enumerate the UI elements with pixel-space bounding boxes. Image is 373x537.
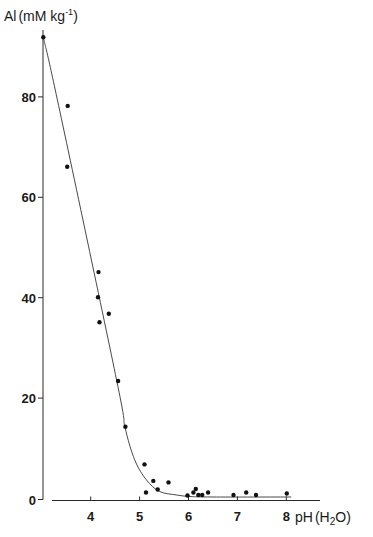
fitted-curve — [43, 37, 291, 497]
x-tick-label: 8 — [283, 509, 290, 524]
svg-text:Al(mM kg-1): Al(mM kg-1) — [4, 7, 78, 24]
data-point — [144, 490, 148, 494]
data-point — [142, 462, 146, 466]
data-point — [185, 493, 189, 497]
data-point — [123, 425, 127, 429]
y-tick-label: 0 — [29, 493, 36, 508]
data-point — [194, 487, 198, 491]
x-tick-label: 4 — [87, 509, 95, 524]
data-point — [285, 491, 289, 495]
data-point — [151, 479, 155, 483]
y-axis-title-sup: -1 — [65, 7, 73, 17]
x-tick-label: 5 — [136, 509, 143, 524]
x-axis-title: pH(H2O) — [295, 509, 351, 527]
x-axis-title-h: H — [320, 509, 330, 525]
y-axis-title-unit: (mM kg — [18, 8, 65, 24]
chart-canvas: Al(mM kg-1) 020406080 45678 pH(H2O) — [0, 0, 373, 537]
x-axis-title-paren-close: ) — [346, 509, 351, 525]
data-points — [41, 35, 289, 498]
data-point — [244, 490, 248, 494]
data-point — [206, 490, 210, 494]
y-tick-label: 60 — [22, 190, 36, 205]
y-axis-title: Al(mM kg-1) — [4, 7, 78, 24]
data-point — [96, 270, 100, 274]
data-point — [41, 35, 45, 39]
data-point — [66, 104, 70, 108]
data-point — [231, 493, 235, 497]
data-point — [254, 493, 258, 497]
y-tick-label: 20 — [22, 391, 36, 406]
data-point — [65, 165, 69, 169]
x-tick-label: 6 — [185, 509, 192, 524]
data-point — [200, 493, 204, 497]
data-point — [166, 480, 170, 484]
data-point — [97, 320, 101, 324]
data-point — [107, 312, 111, 316]
data-point — [96, 295, 100, 299]
y-tick-label: 80 — [22, 90, 36, 105]
y-tick-label: 40 — [22, 291, 36, 306]
data-point — [196, 493, 200, 497]
x-tick-label: 7 — [234, 509, 241, 524]
data-point — [156, 487, 160, 491]
y-axis-title-main: Al — [4, 8, 16, 24]
y-axis-ticks: 020406080 — [22, 90, 43, 508]
x-axis-title-o: O — [335, 509, 346, 525]
x-axis-title-main: pH — [295, 509, 313, 525]
svg-text:pH(H2O): pH(H2O) — [295, 509, 351, 527]
data-point — [116, 379, 120, 383]
y-axis-title-close: ) — [73, 8, 78, 24]
